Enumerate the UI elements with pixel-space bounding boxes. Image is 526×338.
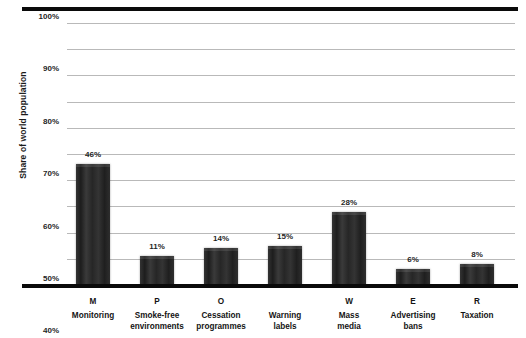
bar-value-label: 15% <box>277 232 293 241</box>
bar-value-label: 14% <box>213 234 229 243</box>
y-axis-tick-label: 60% <box>43 222 59 233</box>
bar <box>76 164 110 285</box>
bar <box>396 269 430 285</box>
x-axis-category-taxation: RTaxation <box>431 296 523 321</box>
gridline: 80% <box>67 75 515 76</box>
bar-value-label: 6% <box>407 255 419 264</box>
category-name: Taxation <box>431 310 523 321</box>
bar-value-label: 8% <box>471 250 483 259</box>
bar <box>140 256 174 285</box>
bar <box>268 246 302 285</box>
gridline: 70% <box>67 102 515 103</box>
plot-area: 100%90%80%70%60%50%40%30%20%10%0%46%11%1… <box>67 23 515 285</box>
gridline: 100% <box>67 23 515 24</box>
y-axis-tick-label: 80% <box>43 117 59 128</box>
bar <box>204 248 238 285</box>
category-letter: R <box>431 296 523 307</box>
bar <box>460 264 494 285</box>
gridline: 40% <box>67 180 515 181</box>
x-axis-baseline <box>22 284 518 288</box>
bar-value-label: 28% <box>341 198 357 207</box>
y-axis-title: Share of world population <box>18 55 28 195</box>
gridline: 60% <box>67 128 515 129</box>
top-rule-divider <box>22 7 518 11</box>
gridline: 90% <box>67 49 515 50</box>
y-axis-tick-label: 90% <box>43 64 59 75</box>
gridline: 50% <box>67 154 515 155</box>
y-axis-tick-label: 40% <box>43 326 59 337</box>
bar-chart-figure: Share of world population 100%90%80%70%6… <box>0 0 526 338</box>
bar <box>332 212 366 285</box>
y-axis-tick-label: 70% <box>43 169 59 180</box>
gridline: 30% <box>67 206 515 207</box>
bar-value-label: 11% <box>149 242 165 251</box>
y-axis-tick-label: 100% <box>39 12 59 23</box>
bar-value-label: 46% <box>85 150 101 159</box>
